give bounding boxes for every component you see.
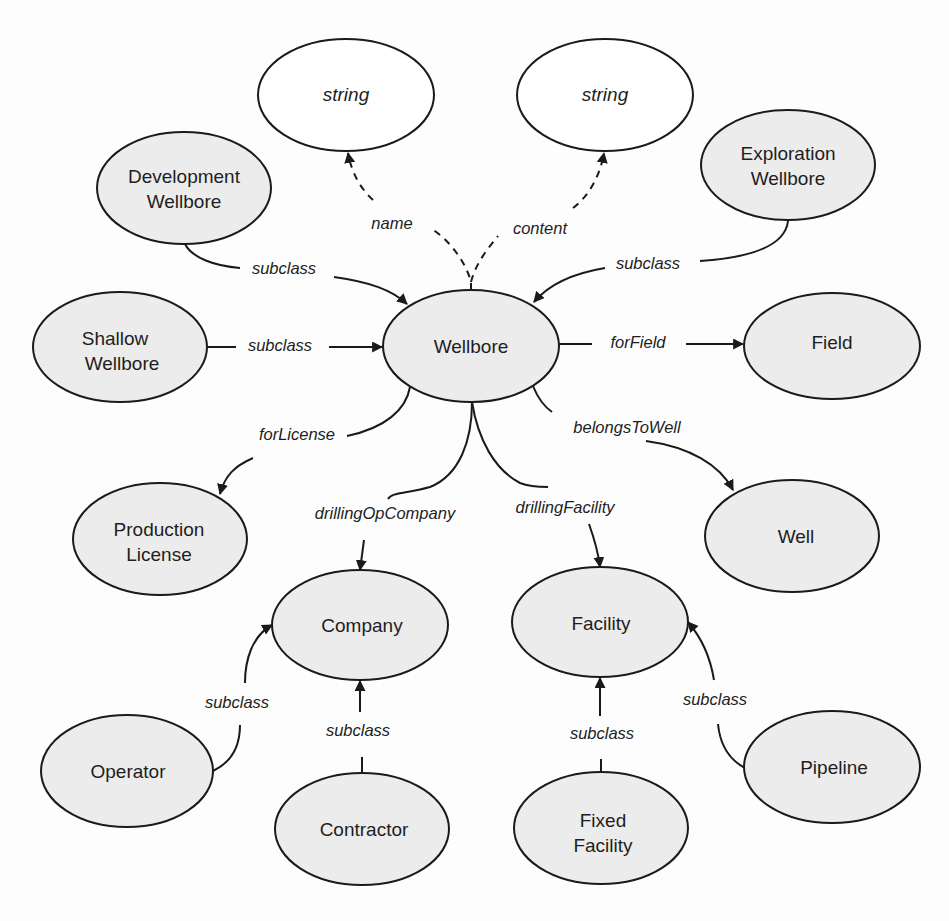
diagram-canvas: name content subclass subclass subclass … bbox=[0, 0, 949, 921]
edge-label-pipeline-subclass: subclass bbox=[683, 690, 747, 708]
edge-label-development-subclass: subclass bbox=[252, 259, 316, 277]
node-facility: Facility bbox=[512, 567, 688, 677]
node-fixed-facility: Fixed Facility bbox=[514, 772, 688, 884]
node-label-fixed-facility-line2: Facility bbox=[573, 835, 633, 856]
edge-label-for-field: forField bbox=[610, 333, 666, 351]
node-label-shallow-wellbore-line1: Shallow bbox=[82, 328, 149, 349]
node-label-production-license-line2: License bbox=[126, 544, 192, 565]
node-production-license: Production License bbox=[73, 483, 247, 595]
node-exploration-wellbore: Exploration Wellbore bbox=[701, 110, 875, 220]
edge-label-fixed-facility-subclass: subclass bbox=[570, 724, 634, 742]
node-label-exploration-wellbore-line2: Wellbore bbox=[751, 168, 826, 189]
node-label-shallow-wellbore-line2: Wellbore bbox=[85, 353, 160, 374]
edge-label-belongs-to-well: belongsToWell bbox=[573, 418, 682, 436]
node-operator: Operator bbox=[41, 715, 213, 827]
node-label-exploration-wellbore-line1: Exploration bbox=[740, 143, 835, 164]
node-field: Field bbox=[744, 293, 920, 399]
ontology-diagram: name content subclass subclass subclass … bbox=[0, 0, 949, 921]
edge-label-content: content bbox=[513, 219, 569, 237]
node-string-name: string bbox=[258, 39, 434, 151]
node-label-field: Field bbox=[811, 332, 852, 353]
node-label-company: Company bbox=[321, 615, 403, 636]
node-label-well: Well bbox=[778, 526, 815, 547]
node-label-operator: Operator bbox=[91, 761, 167, 782]
edge-label-drilling-op-company: drillingOpCompany bbox=[315, 504, 457, 522]
node-label-development-wellbore-line1: Development bbox=[128, 166, 241, 187]
edge-exploration-subclass: subclass bbox=[534, 221, 788, 302]
edge-content: content bbox=[471, 153, 604, 282]
node-wellbore: Wellbore bbox=[383, 290, 559, 402]
node-string-content: string bbox=[517, 39, 693, 151]
edge-fixed-facility-subclass: subclass bbox=[570, 678, 634, 772]
node-contractor: Contractor bbox=[275, 773, 449, 885]
edge-name: name bbox=[348, 153, 471, 290]
edge-label-for-license: forLicense bbox=[259, 425, 335, 443]
node-well: Well bbox=[705, 480, 879, 592]
edge-drilling-op-company: drillingOpCompany bbox=[315, 402, 472, 570]
edge-for-license: forLicense bbox=[220, 387, 410, 494]
node-shallow-wellbore: Shallow Wellbore bbox=[33, 292, 207, 402]
node-label-fixed-facility-line1: Fixed bbox=[580, 810, 626, 831]
edge-label-operator-subclass: subclass bbox=[205, 693, 269, 711]
node-label-contractor: Contractor bbox=[320, 819, 409, 840]
edge-label-name: name bbox=[371, 214, 412, 232]
node-company: Company bbox=[272, 570, 448, 680]
node-label-string-content: string bbox=[582, 84, 629, 105]
edge-development-subclass: subclass bbox=[185, 244, 407, 304]
edge-label-exploration-subclass: subclass bbox=[616, 254, 680, 272]
edge-label-drilling-facility: drillingFacility bbox=[515, 498, 616, 516]
edge-contractor-subclass: subclass bbox=[326, 681, 390, 773]
edge-label-shallow-subclass: subclass bbox=[248, 336, 312, 354]
edge-operator-subclass: subclass bbox=[205, 625, 272, 771]
edge-shallow-subclass: subclass bbox=[207, 336, 382, 354]
edge-label-contractor-subclass: subclass bbox=[326, 721, 390, 739]
node-label-string-name: string bbox=[323, 84, 370, 105]
node-development-wellbore: Development Wellbore bbox=[97, 132, 271, 244]
edge-belongs-to-well: belongsToWell bbox=[533, 386, 733, 490]
node-label-pipeline: Pipeline bbox=[800, 757, 868, 778]
node-label-wellbore: Wellbore bbox=[434, 336, 509, 357]
edge-for-field: forField bbox=[559, 333, 743, 351]
node-label-development-wellbore-line2: Wellbore bbox=[147, 191, 222, 212]
node-pipeline: Pipeline bbox=[744, 711, 920, 823]
edge-pipeline-subclass: subclass bbox=[683, 622, 747, 768]
node-label-facility: Facility bbox=[571, 613, 631, 634]
node-label-production-license-line1: Production bbox=[114, 519, 205, 540]
